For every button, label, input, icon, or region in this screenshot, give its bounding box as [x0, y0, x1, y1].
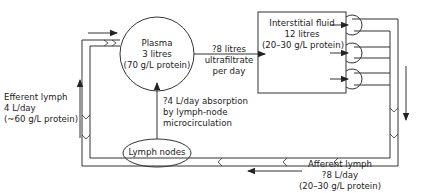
interstitial-title: Interstitial fluid: [262, 18, 342, 29]
ultrafiltrate-label: ?8 litres ultrafiltrate per day: [196, 44, 262, 77]
interstitial-label: Interstitial fluid 12 litres (20–30 g/L …: [262, 18, 342, 51]
plasma-volume: 3 litres: [122, 49, 192, 60]
ultrafiltrate-rate: per day: [196, 66, 262, 77]
efferent-rate: 4 L/day: [4, 103, 78, 114]
absorption-by: by lymph-node: [163, 107, 248, 118]
plasma-label: Plasma 3 litres (70 g/L protein): [122, 38, 192, 71]
interstitial-volume: 12 litres: [262, 29, 342, 40]
lymph-nodes-label: Lymph nodes: [123, 147, 191, 158]
afferent-title: Afferent lymph: [298, 159, 382, 170]
lymph-nodes-title: Lymph nodes: [123, 147, 191, 158]
ultrafiltrate-text: ultrafiltrate: [196, 55, 262, 66]
absorption-rate: ?4 L/day absorption: [163, 96, 248, 107]
afferent-label: Afferent lymph ?8 L/day (20–30 g/L prote…: [298, 159, 382, 192]
lymphatic-capillary-bulbs: [346, 15, 362, 89]
ultrafiltrate-volume: ?8 litres: [196, 44, 262, 55]
afferent-protein: (20–30 g/L protein): [298, 181, 382, 192]
absorption-label: ?4 L/day absorption by lymph-node microc…: [163, 96, 248, 129]
plasma-protein: (70 g/L protein): [122, 60, 192, 71]
efferent-protein: (~60 g/L protein): [4, 114, 78, 125]
afferent-rate: ?8 L/day: [298, 170, 382, 181]
interstitial-protein: (20–30 g/L protein): [262, 40, 342, 51]
plasma-title: Plasma: [122, 38, 192, 49]
efferent-label: Efferent lymph 4 L/day (~60 g/L protein): [4, 92, 78, 125]
efferent-title: Efferent lymph: [4, 92, 78, 103]
absorption-site: microcirculation: [163, 118, 248, 129]
